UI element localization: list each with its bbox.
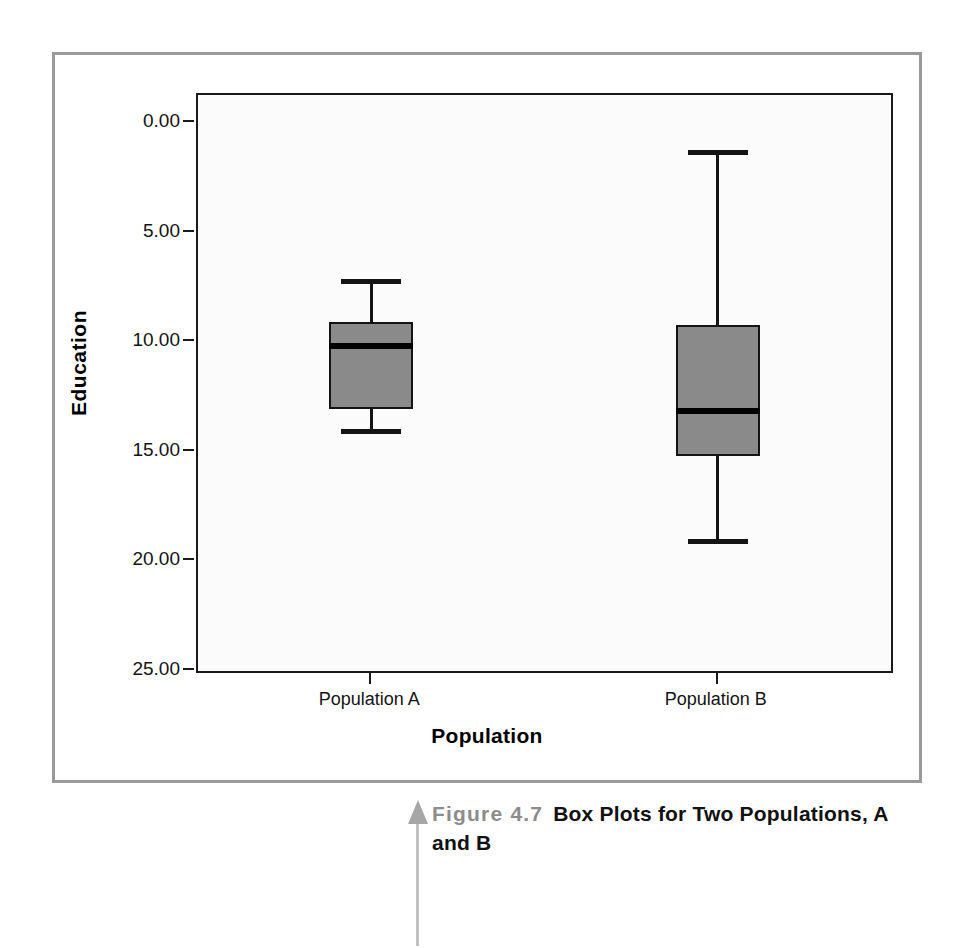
y-axis-tick-mark xyxy=(183,339,194,341)
y-axis-tick-label: 0.00 xyxy=(143,110,180,131)
plot-inner xyxy=(198,95,891,671)
figure-panel: 25.0020.0015.0010.005.000.00 Education P… xyxy=(52,52,922,783)
whisker-lower-line xyxy=(716,456,719,544)
y-axis-tick-mark xyxy=(183,558,194,560)
up-arrow-icon xyxy=(407,798,429,948)
y-axis-tick-mark xyxy=(183,449,194,451)
x-axis-title: Population xyxy=(55,724,919,748)
y-axis-tick-20: 5.00 xyxy=(143,220,180,242)
median-line xyxy=(676,408,760,414)
box-iqr xyxy=(676,325,760,456)
y-axis-tick-25: 0.00 xyxy=(143,110,180,132)
box-plot-b xyxy=(198,95,891,671)
x-axis-tick-mark xyxy=(369,673,371,684)
x-axis-tick-label: Population B xyxy=(665,689,767,710)
whisker-lower-cap xyxy=(688,539,748,544)
x-axis-tick-label: Population A xyxy=(319,689,420,710)
y-axis-tick-10: 15.00 xyxy=(132,439,180,461)
y-axis-tick-mark xyxy=(183,120,194,122)
figure-caption: Figure 4.7Box Plots for Two Populations,… xyxy=(432,800,912,858)
figure-number: Figure 4.7 xyxy=(432,802,543,825)
y-axis-tick-mark xyxy=(183,668,194,670)
y-axis-tick-label: 25.00 xyxy=(132,658,180,679)
y-axis-title: Education xyxy=(67,310,97,416)
y-axis-tick-15: 10.00 xyxy=(132,329,180,351)
whisker-upper-line xyxy=(716,150,719,325)
y-axis-tick-label: 20.00 xyxy=(132,548,180,569)
plot-area xyxy=(196,93,893,673)
y-axis-tick-label: 5.00 xyxy=(143,220,180,241)
y-axis-tick-label: 15.00 xyxy=(132,439,180,460)
y-axis-tick-label: 10.00 xyxy=(132,329,180,350)
whisker-upper-cap xyxy=(688,150,748,155)
y-axis-tick-5: 20.00 xyxy=(132,548,180,570)
x-axis-tick-mark xyxy=(716,673,718,684)
y-axis-tick-mark xyxy=(183,230,194,232)
figure-caption-text: Figure 4.7Box Plots for Two Populations,… xyxy=(432,800,912,858)
y-axis-tick-0: 25.00 xyxy=(132,658,180,680)
